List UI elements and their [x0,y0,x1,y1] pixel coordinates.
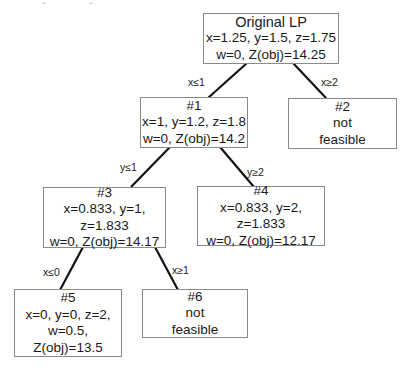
node-line: feasible [289,132,396,149]
node-6: #6 not feasible [142,289,248,338]
node-line: x=0.833, y=1, [44,201,165,218]
node-3: #3 x=0.833, y=1, z=1.833 w=0, Z(obj)=14.… [43,187,166,248]
node-line: feasible [143,322,247,339]
edge-label-n1-n4: y≥2 [247,166,264,178]
node-line: w=0, Z(obj)=12.17 [198,233,324,250]
edge-label-n3-n6: x≥1 [172,264,189,276]
node-title: #6 [143,289,247,306]
edge-label-n3-n5: x≤0 [43,266,60,278]
node-4: #4 x=0.833, y=2, z=1.833 w=0, Z(obj)=12.… [197,186,325,246]
node-line: not [289,115,396,132]
node-title: Original LP [204,14,338,31]
node-title: #4 [198,183,324,200]
node-line: z=1.833 [198,216,324,233]
node-line: w=0, Z(obj)=14.17 [44,234,165,251]
node-original-lp: Original LP x=1.25, y=1.5, z=1.75 w=0, Z… [203,13,339,64]
edge-label-n1-n3: y≤1 [120,161,137,173]
node-5: #5 x=0, y=0, z=2, w=0.5, Z(obj)=13.5 [14,289,122,357]
node-title: #1 [141,98,247,115]
node-line: w=0, Z(obj)=14.25 [204,47,338,64]
node-2: #2 not feasible [288,98,397,149]
node-line: not [143,305,247,322]
node-title: #5 [15,290,121,307]
node-line: x=1.25, y=1.5, z=1.75 [204,30,338,47]
node-line: x=0, y=0, z=2, [15,307,121,324]
edge-root-n1 [208,63,247,98]
node-line: w=0, Z(obj)=14.2 [141,131,247,148]
node-line: Z(obj)=13.5 [15,340,121,357]
node-title: #3 [44,185,165,202]
edge-label-root-n2: x≥2 [321,76,338,88]
edge-n3-n5 [60,247,83,290]
edge-label-root-n1: x≤1 [188,76,205,88]
node-line: x=1, y=1.2, z=1.8 [141,114,247,131]
node-line: x=0.833, y=2, [198,200,324,217]
node-1: #1 x=1, y=1.2, z=1.8 w=0, Z(obj)=14.2 [140,97,248,148]
node-title: #2 [289,99,396,116]
node-line: w=0.5, [15,323,121,340]
node-line: z=1.833 [44,218,165,235]
